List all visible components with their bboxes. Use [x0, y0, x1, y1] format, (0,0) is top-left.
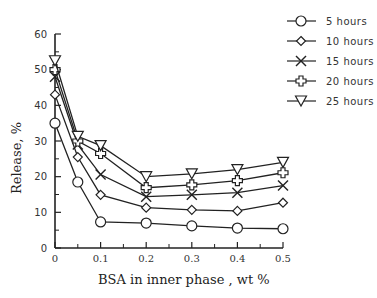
y-tick-label: 50 — [34, 64, 47, 75]
series-15-hours — [50, 72, 288, 202]
diamond-marker-icon — [73, 153, 82, 162]
plus-marker-icon — [232, 176, 242, 186]
circle-marker-icon — [73, 177, 83, 187]
legend-label: 10 hours — [326, 36, 374, 47]
y-tick-label: 30 — [34, 136, 47, 147]
diamond-marker-icon — [142, 203, 151, 212]
circle-marker-icon — [278, 224, 288, 234]
legend-item: 15 hours — [287, 56, 374, 67]
circle-marker-icon — [96, 217, 106, 227]
x-tick-label: 0.1 — [93, 253, 109, 264]
plus-marker-icon — [187, 180, 197, 190]
series-line — [55, 95, 283, 211]
diamond-marker-icon — [96, 190, 105, 199]
y-tick-label: 20 — [34, 171, 47, 182]
circle-marker-icon — [141, 218, 151, 228]
legend-label: 5 hours — [326, 16, 367, 27]
plus-marker-icon — [278, 168, 288, 178]
y-tick-label: 10 — [34, 207, 47, 218]
diamond-marker-icon — [233, 206, 242, 215]
diamond-marker-icon — [279, 198, 288, 207]
release-chart: 010203040506000.10.20.30.40.5 5 hours10 … — [0, 0, 377, 298]
plus-legend-icon — [296, 76, 306, 86]
cross-marker-icon — [96, 170, 106, 180]
series-25-hours — [50, 56, 289, 182]
x-tick-label: 0.3 — [184, 253, 200, 264]
series-group — [50, 56, 289, 234]
legend-item: 10 hours — [287, 36, 374, 47]
legend-label: 25 hours — [326, 96, 374, 107]
y-tick-label: 0 — [41, 243, 47, 254]
legend-item: 20 hours — [287, 76, 374, 87]
diamond-marker-icon — [51, 90, 60, 99]
legend-label: 15 hours — [326, 56, 374, 67]
series-20-hours — [50, 65, 288, 193]
y-tick-label: 60 — [34, 29, 47, 40]
diamond-marker-icon — [187, 205, 196, 214]
plus-marker-icon — [141, 183, 151, 193]
series-5-hours — [50, 118, 288, 234]
legend-item: 25 hours — [287, 96, 374, 107]
x-tick-label: 0 — [52, 253, 58, 264]
x-axis-title: BSA in inner phase , wt % — [98, 272, 270, 287]
x-tick-label: 0.4 — [229, 253, 245, 264]
x-tick-label: 0.5 — [275, 253, 291, 264]
circle-marker-icon — [187, 221, 197, 231]
series-line — [55, 70, 283, 188]
circle-marker-icon — [50, 118, 60, 128]
diamond-legend-icon — [297, 37, 306, 46]
legend-label: 20 hours — [326, 76, 374, 87]
x-tick-label: 0.2 — [138, 253, 154, 264]
triangle-down-marker-icon — [50, 56, 61, 66]
circle-marker-icon — [232, 223, 242, 233]
y-tick-label: 40 — [34, 100, 47, 111]
circle-legend-icon — [296, 16, 306, 26]
triangle-down-marker-icon — [95, 141, 106, 151]
y-axis-title: Release, % — [9, 122, 24, 194]
legend-item: 5 hours — [287, 16, 367, 27]
legend: 5 hours10 hours15 hours20 hours25 hours — [287, 16, 374, 107]
